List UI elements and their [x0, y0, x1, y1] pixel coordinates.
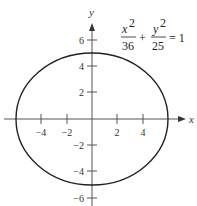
x-ticks: −4 −2 2 4 [36, 114, 146, 138]
svg-text:36: 36 [122, 39, 134, 53]
ellipse-chart: x y −4 −2 2 4 6 4 2 −2 −4 −6 x 2 36 + y [0, 0, 197, 206]
y-tick-label: −6 [73, 193, 84, 204]
y-axis-label: y [88, 6, 94, 18]
svg-text:y: y [152, 22, 159, 36]
x-axis-label: x [188, 113, 194, 125]
svg-text:2: 2 [160, 16, 166, 30]
y-tick-label: 2 [79, 87, 84, 98]
svg-text:2: 2 [129, 16, 135, 30]
y-tick-label: −2 [73, 140, 84, 151]
x-tick-label: −2 [62, 127, 73, 138]
y-tick-label: 6 [79, 35, 84, 46]
equation-annotation: x 2 36 + y 2 25 = 1 [121, 16, 185, 53]
svg-text:+: + [139, 31, 146, 45]
svg-text:x: x [121, 22, 128, 36]
x-tick-label: 2 [115, 127, 120, 138]
y-tick-label: 4 [79, 61, 84, 72]
y-tick-label: −4 [73, 166, 84, 177]
x-axis-arrow-icon [178, 116, 186, 122]
svg-text:25: 25 [152, 39, 164, 53]
y-axis-arrow-icon [89, 23, 95, 31]
x-tick-label: −4 [36, 127, 47, 138]
x-tick-label: 4 [141, 127, 146, 138]
svg-text:= 1: = 1 [169, 31, 185, 45]
